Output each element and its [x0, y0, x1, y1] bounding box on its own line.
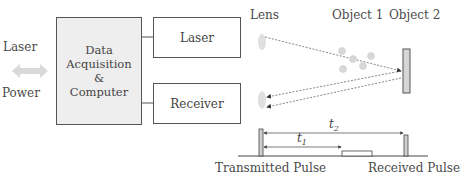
- return-beam-1: [267, 71, 401, 97]
- object1-particles: [339, 48, 375, 73]
- received-pulse-bar: [404, 135, 408, 156]
- lens-bottom-icon: [258, 91, 266, 109]
- double-arrow-icon: [12, 64, 48, 78]
- outgoing-beam: [265, 37, 401, 71]
- object2-target: [403, 49, 410, 93]
- return-beam-2: [267, 78, 401, 107]
- lens-top-icon: [258, 34, 266, 50]
- transmitted-pulse-bar: [259, 129, 263, 156]
- intermediate-pulse: [342, 151, 372, 156]
